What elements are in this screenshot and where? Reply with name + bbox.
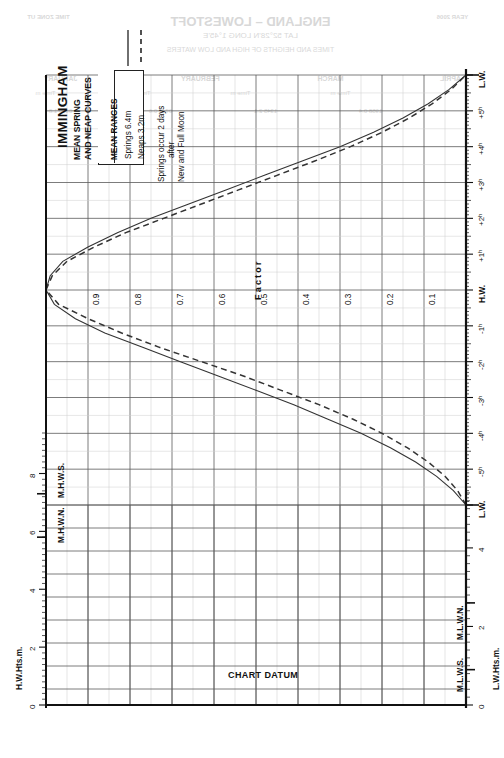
springs-note-line2: after — [167, 142, 177, 158]
time-tick-label--4: -4ʰ — [477, 431, 486, 441]
time-tick-label--5: -5ʰ — [477, 467, 486, 477]
hw-height-tick-label-4: 4 — [28, 589, 37, 593]
mhwn-marker-label: M.H.W.N. — [56, 508, 66, 544]
time-tick-label--3: -3ʰ — [477, 395, 486, 405]
mlwn-marker-label: M.L.W.N. — [455, 605, 465, 640]
factor-tick-label-0.3: 0.3 — [344, 294, 353, 305]
time-tick-label-5: +5ʰ — [477, 107, 486, 119]
mean-range-springs: Springs 6.4m — [124, 111, 133, 159]
factor-tick-label-0.8: 0.8 — [134, 294, 143, 305]
springs-note-line3: New and Full Moon — [177, 111, 187, 182]
mlws-marker-label: M.L.W.S. — [455, 658, 465, 692]
lw-height-axis-title: L.W.Hts.m. — [491, 648, 501, 690]
springs-note-line1: Springs occur 2 days — [157, 106, 167, 182]
factor-tick-label-0.7: 0.7 — [176, 294, 185, 305]
hw-height-tick-label-0: 0 — [28, 705, 37, 709]
factor-tick-label-0.4: 0.4 — [302, 294, 311, 305]
time-tick-label-1: +1ʰ — [477, 250, 486, 262]
factor-tick-label-0.2: 0.2 — [386, 294, 395, 305]
time-tick-label-4: +4ʰ — [477, 142, 486, 154]
hw-height-tick-label-2: 2 — [28, 647, 37, 651]
chart-datum-label: CHART DATUM — [228, 670, 298, 680]
mhws-marker-label: M.H.W.S. — [56, 463, 66, 498]
time-tick-label--1: -1ʰ — [477, 324, 486, 334]
mean-ranges-header: MEAN RANGES — [110, 99, 119, 160]
page-title: IMMINGHAM — [55, 65, 70, 148]
hw-height-tick-label-6: 6 — [28, 531, 37, 535]
hw-height-axis-title: H.W.Hts.m. — [14, 647, 24, 690]
lw-height-tick-label-4: 4 — [477, 547, 486, 551]
factor-tick-label-0.1: 0.1 — [428, 294, 437, 305]
factor-tick-label-0.9: 0.9 — [92, 294, 101, 305]
time-tick-label-2: +2ʰ — [477, 214, 486, 226]
mean-range-neaps: Neaps 3.2m — [137, 115, 146, 159]
lw-height-tick-label-0: 0 — [477, 705, 486, 709]
factor-tick-label-0.5: 0.5 — [260, 294, 269, 305]
chart-subtitle-line1: MEAN SPRING — [72, 99, 83, 160]
chart-subtitle-line2: AND NEAP CURVES — [83, 77, 94, 160]
time-tick-label-0: H.W. — [477, 285, 487, 303]
hw-height-tick-label-8: 8 — [28, 473, 37, 477]
legend-swatches — [124, 28, 152, 68]
time-tick-label--2: -2ʰ — [477, 359, 486, 369]
time-tick-label-3: +3ʰ — [477, 178, 486, 190]
time-tick-label--6: L.W. — [477, 501, 487, 518]
time-tick-label-6: L.W. — [477, 71, 487, 88]
factor-tick-label-0.6: 0.6 — [218, 294, 227, 305]
lw-height-tick-label-2: 2 — [477, 626, 486, 630]
